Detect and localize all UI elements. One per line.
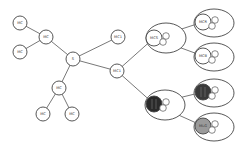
network-diagram: MCSMCRMCBMLG MCMCMCSMC1MCMCMCMC1 [0,0,249,147]
tree-node: S [66,52,80,66]
small-node-icon [209,57,216,64]
group-label: MCB [199,54,208,58]
groups-layer: MCSMCRMCBMLG [145,9,234,141]
tree-node: MC [13,45,27,59]
tree-node: MC1 [111,30,125,44]
node-label: MC1 [114,35,122,39]
small-node-icon [163,99,170,106]
group-node: MCS [146,23,186,53]
tree-node: MC [36,107,50,121]
small-node-icon [163,33,170,40]
group-label: MLG [199,124,207,128]
small-node-icon [160,105,167,112]
tree-node: MC [39,30,53,44]
node-label: MC [17,50,23,54]
small-node-icon [212,17,219,24]
edge-line [73,37,118,59]
tree-node: MC [52,81,66,95]
node-label: MC [69,112,75,116]
small-node-icon [209,127,216,134]
small-node-icon [212,51,219,58]
small-node-icon [209,93,216,100]
group-label: MCR [199,20,208,24]
tree-node: MC1 [110,64,124,78]
tree-node: MC [65,107,79,121]
small-node-icon [212,121,219,128]
node-label: MC [56,86,62,90]
node-label: MC [40,112,46,116]
group-node [145,90,185,120]
node-label: MC [43,35,49,39]
node-label: MC [17,21,23,25]
group-node [194,79,234,107]
small-node-icon [160,39,167,46]
group-node: MCB [194,43,234,71]
group-primary-node [146,96,162,112]
node-label: MC1 [113,69,121,73]
group-label: MCS [150,36,159,40]
small-node-icon [209,23,216,30]
group-node: MCR [194,9,234,37]
tree-node: MC [13,16,27,30]
small-node-icon [212,87,219,94]
group-primary-node [195,84,211,100]
group-node: MLG [194,113,234,141]
